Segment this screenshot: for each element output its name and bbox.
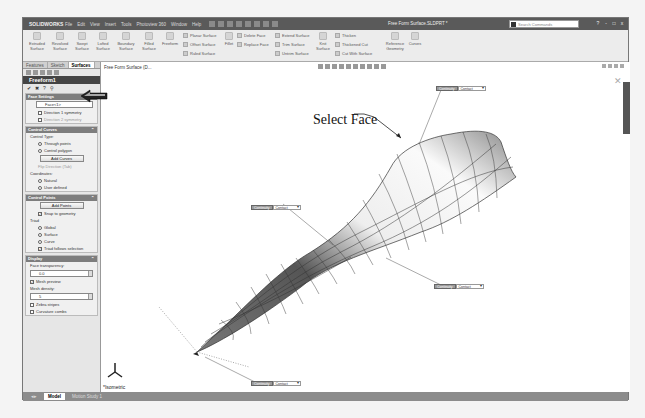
continuity-dropdown[interactable]: Contact — [273, 381, 301, 386]
graphics-viewport[interactable]: Free Form Surface (D... ✕ — [101, 62, 630, 392]
planar-surface-button[interactable]: Planar Surface — [183, 33, 216, 38]
add-points-button[interactable]: Add Points — [40, 202, 84, 209]
feature-manager-icon[interactable] — [26, 70, 31, 75]
replace-face-icon — [237, 42, 242, 47]
delete-face-icon — [237, 33, 242, 38]
spinner[interactable] — [88, 271, 92, 276]
menu-window[interactable]: Window — [171, 22, 187, 27]
continuity-callout-1[interactable]: ContinuityContact — [436, 86, 486, 91]
boundary-surface-icon — [122, 32, 130, 40]
thicken-button[interactable]: Thicken — [335, 33, 356, 38]
fillet-button[interactable]: Fillet — [223, 32, 235, 46]
boundary-surface-button[interactable]: Boundary Surface — [114, 32, 138, 51]
untrim-surface-icon — [275, 51, 280, 56]
delete-face-button[interactable]: Delete Face — [237, 33, 266, 38]
untrim-surface-button[interactable]: Untrim Surface — [275, 51, 309, 56]
menu-tools[interactable]: Tools — [121, 22, 132, 27]
menu-file[interactable]: File — [65, 22, 72, 27]
continuity-callout-3[interactable]: ContinuityContact — [434, 284, 484, 289]
new-icon[interactable] — [209, 21, 215, 27]
menu-edit[interactable]: Edit — [77, 22, 85, 27]
tab-motion-study[interactable]: Motion Study 1 — [68, 393, 106, 400]
continuity-dropdown[interactable]: Contact — [456, 284, 484, 289]
snap-to-geometry-checkbox[interactable]: ✓Snap to geometry — [26, 210, 97, 217]
minimize-button[interactable]: - — [603, 20, 609, 27]
menu-bar: File Edit View Insert Tools Photoview 36… — [65, 22, 201, 27]
surface-radio[interactable]: Surface — [26, 231, 97, 238]
curves-button[interactable]: Curves — [408, 32, 422, 46]
help-icon[interactable]: ? — [43, 85, 46, 90]
rebuild-icon[interactable] — [263, 21, 269, 27]
continuity-dropdown[interactable]: Contact — [458, 86, 486, 91]
cancel-x-icon[interactable]: ✖ — [35, 85, 39, 90]
close-button[interactable]: x — [619, 20, 625, 27]
select-icon[interactable] — [254, 21, 260, 27]
continuity-callout-2[interactable]: ContinuityContact — [251, 205, 301, 210]
spinner[interactable] — [88, 294, 92, 299]
trim-surface-button[interactable]: Trim Surface — [275, 42, 305, 47]
save-icon[interactable] — [227, 21, 233, 27]
dimxpert-icon[interactable] — [47, 70, 52, 75]
configuration-manager-icon[interactable] — [40, 70, 45, 75]
tab-features[interactable]: Features — [23, 62, 48, 68]
cut-with-surface-button[interactable]: Cut With Surface — [335, 51, 372, 56]
zebra-stripes-checkbox[interactable]: Zebra stripes — [26, 301, 97, 308]
replace-face-button[interactable]: Replace Face — [237, 42, 269, 47]
extruded-surface-button[interactable]: Extruded Surface — [26, 32, 48, 51]
filled-surface-button[interactable]: Filled Surface — [139, 32, 159, 51]
open-icon[interactable] — [218, 21, 224, 27]
property-manager-icon[interactable] — [33, 70, 38, 75]
ok-check-icon[interactable]: ✔ — [27, 85, 31, 90]
display-header[interactable]: Display⌃ — [26, 256, 97, 262]
offset-surface-button[interactable]: Offset Surface — [183, 42, 216, 47]
curve-radio[interactable]: Curve — [26, 238, 97, 245]
undo-icon[interactable] — [245, 21, 251, 27]
control-points-header[interactable]: Control Points⌃ — [26, 195, 97, 201]
direction1-symmetry-checkbox[interactable]: Direction 1 symmetry — [26, 109, 97, 116]
triad-follows-selection-checkbox[interactable]: ✓Triad follows selection — [26, 245, 97, 252]
extend-surface-button[interactable]: Extend Surface — [275, 33, 309, 38]
menu-insert[interactable]: Insert — [105, 22, 116, 27]
help-button[interactable]: ? — [595, 20, 601, 27]
control-polygon-radio[interactable]: Control polygon — [26, 147, 97, 154]
tab-model[interactable]: Model — [44, 393, 65, 400]
menu-view[interactable]: View — [90, 22, 100, 27]
command-manager-ribbon: Extruded Surface Revolved Surface Swept … — [23, 30, 628, 62]
curvature-combs-checkbox[interactable]: Curvature combs — [26, 308, 97, 315]
options-icon[interactable] — [272, 21, 278, 27]
mesh-preview-checkbox[interactable]: ✓Mesh preview — [26, 278, 97, 285]
direction2-symmetry-checkbox[interactable]: Direction 2 symmetry — [26, 116, 97, 123]
ruled-surface-button[interactable]: Ruled Surface — [183, 51, 215, 56]
flip-direction-button[interactable]: Flip Direction (Tab) — [26, 163, 97, 170]
revolved-surface-button[interactable]: Revolved Surface — [49, 32, 71, 51]
global-radio[interactable]: Global — [26, 224, 97, 231]
menu-help[interactable]: Help — [192, 22, 201, 27]
continuity-dropdown[interactable]: Contact — [273, 205, 301, 210]
menu-photoview[interactable]: Photoview 360 — [137, 22, 167, 27]
freeform-button[interactable]: Freeform — [160, 32, 180, 46]
add-curves-button[interactable]: Add Curves — [40, 155, 84, 162]
print-icon[interactable] — [236, 21, 242, 27]
face-transparency-input[interactable]: 0.0 — [30, 270, 93, 277]
natural-radio[interactable]: Natural — [26, 177, 97, 184]
tab-surfaces[interactable]: Surfaces — [69, 62, 95, 68]
display-manager-icon[interactable] — [54, 70, 59, 75]
view-orientation-label: *Isometric — [103, 384, 125, 390]
through-points-radio[interactable]: Through points — [26, 140, 97, 147]
knit-surface-button[interactable]: Knit Surface — [315, 32, 331, 51]
swept-surface-button[interactable]: Swept Surface — [72, 32, 92, 51]
lofted-surface-button[interactable]: Lofted Surface — [93, 32, 113, 51]
control-curves-header[interactable]: Control Curves⌃ — [26, 127, 97, 133]
user-defined-radio[interactable]: User defined — [26, 184, 97, 191]
search-commands-input[interactable]: Search Commands — [509, 20, 579, 28]
reference-geometry-button[interactable]: Reference Geometry — [383, 32, 407, 51]
pushpin-icon[interactable]: ⚲ — [50, 85, 54, 90]
freeform-icon — [166, 32, 174, 40]
tab-scroll-arrows[interactable]: ◂▸ — [27, 393, 41, 400]
maximize-button[interactable]: □ — [611, 20, 617, 27]
mesh-density-input[interactable]: 5 — [30, 293, 93, 300]
swept-surface-icon — [78, 32, 86, 40]
thickened-cut-button[interactable]: Thickened Cut — [335, 42, 368, 47]
tab-sketch[interactable]: Sketch — [48, 62, 69, 68]
continuity-callout-4[interactable]: ContinuityContact — [251, 381, 301, 386]
